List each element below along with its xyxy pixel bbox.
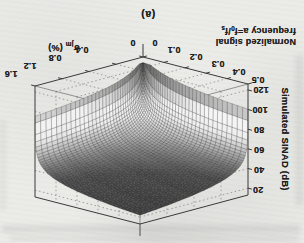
- figure-caption: (a): [141, 9, 155, 21]
- z-tick-label: 120: [253, 85, 269, 95]
- y-tick-label: 1.2: [23, 61, 36, 71]
- z-tick-label: 20: [253, 185, 263, 195]
- y-tick-label: 0: [130, 38, 135, 48]
- scanned-figure: (a) Normalized signal frequency a=f0/fs …: [0, 0, 304, 243]
- y-tick-label: 1.6: [4, 69, 17, 79]
- y-tick-label: 0.4: [75, 45, 88, 55]
- x-tick-label: 0.4: [232, 67, 245, 77]
- y-tick-label: 0.8: [48, 53, 61, 63]
- x-tick-label: 0.3: [211, 59, 224, 69]
- x-axis-title-line2: frequency a=f0/fs: [192, 23, 296, 37]
- x-axis-title: Normalized signal frequency a=f0/fs: [192, 23, 296, 48]
- x-tick-label: 0.5: [251, 75, 264, 85]
- z-tick-label: 100: [252, 105, 268, 115]
- x-tick-label: 0: [152, 38, 157, 48]
- x-axis-title-line1: Normalized signal: [192, 37, 296, 48]
- z-tick-label: 80: [254, 125, 264, 135]
- x-tick-label: 0.2: [189, 52, 202, 62]
- x-tick-label: 0.1: [167, 45, 180, 55]
- z-tick-label: 40: [254, 165, 264, 175]
- z-axis-title: Simulated SINAD (dB): [280, 87, 291, 190]
- z-tick-label: 60: [254, 145, 264, 155]
